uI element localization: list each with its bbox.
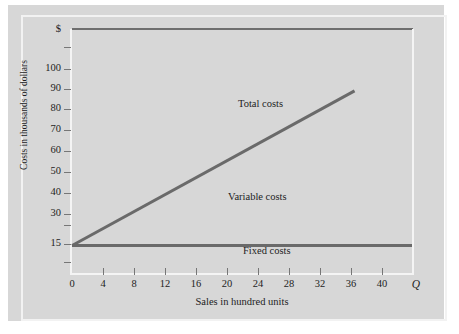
y-axis-tick-70 <box>64 130 71 131</box>
chart-top-rule <box>72 28 413 30</box>
y-axis-tick-90 <box>64 89 71 90</box>
fixed-costs-line <box>72 244 412 247</box>
x-axis-label-12: 12 <box>153 279 177 290</box>
right-axis-spine <box>412 29 414 275</box>
x-axis-title: Sales in hundred units <box>72 296 412 307</box>
y-axis-tick-15 <box>64 244 71 245</box>
x-axis-label-4: 4 <box>91 279 115 290</box>
x-axis-tick-28 <box>289 268 290 275</box>
x-axis-end-symbol: Q <box>404 279 428 291</box>
x-axis-tick-20 <box>227 268 228 275</box>
x-axis-label-20: 20 <box>215 279 239 290</box>
y-axis-currency-symbol: $ <box>56 24 61 35</box>
y-axis-tick-60 <box>64 151 71 152</box>
y-axis-label-80: 80 <box>51 103 62 114</box>
y-axis-tick-40 <box>64 193 71 194</box>
y-axis-label-90: 90 <box>51 83 62 94</box>
x-axis-tick-24 <box>258 268 259 275</box>
y-axis-tick-minor <box>64 262 71 263</box>
y-axis-label-100: 100 <box>45 63 61 74</box>
y-axis-label-15: 15 <box>51 238 62 249</box>
x-axis-tick-36 <box>351 268 352 275</box>
x-axis-label-36: 36 <box>339 279 363 290</box>
x-axis-label-40: 40 <box>370 279 394 290</box>
y-axis-tick-minor <box>64 47 71 48</box>
x-axis-tick-16 <box>196 268 197 275</box>
y-axis-tick-80 <box>64 109 71 110</box>
x-axis-label-0: 0 <box>60 279 84 290</box>
x-axis-tick-4 <box>103 268 104 275</box>
y-axis-tick-50 <box>64 172 71 173</box>
x-axis-label-28: 28 <box>277 279 301 290</box>
y-axis-label-70: 70 <box>51 124 62 135</box>
x-axis-label-32: 32 <box>308 279 332 290</box>
y-axis-tick-100 <box>64 69 71 70</box>
x-axis-label-24: 24 <box>246 279 270 290</box>
cost-behavior-chart-figure: $ 100 90 80 70 60 50 40 30 15 Costs in t… <box>0 0 459 334</box>
x-axis-label-8: 8 <box>122 279 146 290</box>
fixed-costs-label: Fixed costs <box>243 245 291 256</box>
figure-inner-border <box>21 15 447 321</box>
x-axis-tick-40 <box>382 268 383 275</box>
y-axis-label-30: 30 <box>51 208 62 219</box>
x-axis-tick-12 <box>165 268 166 275</box>
variable-costs-label: Variable costs <box>228 191 287 202</box>
y-axis-label-60: 60 <box>51 145 62 156</box>
total-costs-label: Total costs <box>238 98 283 109</box>
y-axis-label-40: 40 <box>51 187 62 198</box>
x-axis-spine <box>70 273 414 275</box>
y-axis-tick-minor <box>64 225 71 226</box>
y-axis-tick-30 <box>64 214 71 215</box>
x-axis-tick-32 <box>320 268 321 275</box>
y-axis-title: Costs in thousands of dollars <box>19 25 29 205</box>
x-axis-label-16: 16 <box>184 279 208 290</box>
y-axis-label-50: 50 <box>51 166 62 177</box>
x-axis-tick-8 <box>134 268 135 275</box>
